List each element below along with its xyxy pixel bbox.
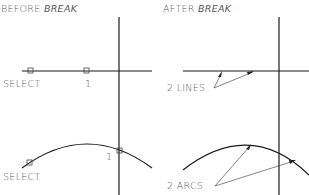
before-arc [22,144,152,168]
select-label-line: SELECT [3,78,41,89]
after-break-command: BREAK [198,3,231,14]
before-break-command: BREAK [44,3,77,14]
select-label-arc: SELECT [3,171,41,182]
point1-label-arc: 1 [106,151,112,162]
point1-label-line: 1 [85,78,91,89]
leader-two-arcs [215,146,294,186]
two-lines-label: 2 LINES [167,82,205,93]
two-arcs-label: 2 ARCS [167,180,203,191]
arrowhead-icon [218,71,222,77]
before-break-title: BEFORE BREAK [1,3,77,14]
break-diagram [0,0,309,195]
after-break-title: AFTER BREAK [163,3,231,14]
